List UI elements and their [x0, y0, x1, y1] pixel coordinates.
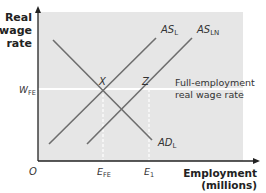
wfe-label: WFE: [19, 85, 36, 97]
point-x-label: X: [98, 76, 107, 87]
ylabel-line3: rate: [6, 37, 32, 50]
labour-market-diagram: Real wage rate WFE O EFE E1 Employment (…: [0, 0, 266, 193]
xlabel-line1: Employment: [183, 167, 257, 179]
fe-annotation-line1: Full-employment: [175, 77, 255, 88]
xlabel-line2: (millions): [201, 179, 257, 191]
efe-label: EFE: [97, 166, 111, 179]
x-axis-arrow-icon: [253, 158, 260, 164]
ylabel-line2: wage: [0, 24, 32, 37]
point-z-label: Z: [141, 76, 150, 87]
fe-annotation-line2: real wage rate: [175, 89, 244, 100]
origin-label: O: [29, 166, 37, 177]
e1-label: E1: [144, 166, 154, 179]
ylabel-line1: Real: [5, 11, 32, 24]
y-axis-arrow-icon: [35, 6, 41, 13]
